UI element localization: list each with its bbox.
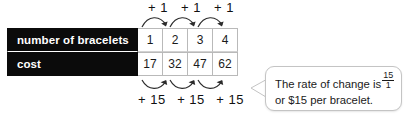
fraction-denominator: 1 xyxy=(382,80,394,90)
table-cell: 3 xyxy=(188,28,213,52)
table-row: cost 17 32 47 62 xyxy=(7,52,238,76)
table-row: number of bracelets 1 2 3 4 xyxy=(7,28,238,52)
rate-fraction: 151 xyxy=(382,71,394,90)
bottom-difference-labels: + 15 + 15 + 15 xyxy=(138,92,244,107)
callout-line1-prefix: The rate of change is xyxy=(275,78,381,90)
callout-line2: or $15 per bracelet. xyxy=(275,94,373,106)
table-cell: 17 xyxy=(138,52,163,76)
bottom-arc-icon xyxy=(142,80,166,88)
table-cell: 1 xyxy=(138,28,163,52)
bottom-difference-label: + 15 xyxy=(177,92,205,107)
bottom-arc-icon xyxy=(170,80,194,88)
table-cell: 47 xyxy=(188,52,213,76)
top-arc-icon xyxy=(198,18,222,27)
top-arrows-svg xyxy=(138,13,238,29)
top-arrow-group xyxy=(138,13,238,29)
bracelet-cost-table: number of bracelets 1 2 3 4 cost 17 32 4… xyxy=(7,28,238,76)
top-arc-icon xyxy=(170,18,194,27)
bottom-arrows-svg xyxy=(138,78,238,93)
bottom-arrow-group xyxy=(138,78,238,93)
row-label-number-of-bracelets: number of bracelets xyxy=(7,28,138,52)
bottom-difference-label: + 15 xyxy=(216,92,244,107)
table-cell: 62 xyxy=(213,52,238,76)
rate-of-change-callout: The rate of change is151 or $15 per brac… xyxy=(265,66,402,111)
rate-of-change-figure: + 1 + 1 + 1 number of bracelets 1 2 3 4 xyxy=(0,0,405,117)
bottom-arc-icon xyxy=(198,80,222,88)
bottom-difference-label: + 15 xyxy=(138,92,166,107)
top-arc-icon xyxy=(142,18,166,27)
callout-text: The rate of change is151 or $15 per brac… xyxy=(275,74,397,108)
table-cell: 32 xyxy=(163,52,188,76)
row-label-cost: cost xyxy=(7,52,138,76)
table-cell: 4 xyxy=(213,28,238,52)
table-cell: 2 xyxy=(163,28,188,52)
fraction-numerator: 15 xyxy=(382,71,394,80)
